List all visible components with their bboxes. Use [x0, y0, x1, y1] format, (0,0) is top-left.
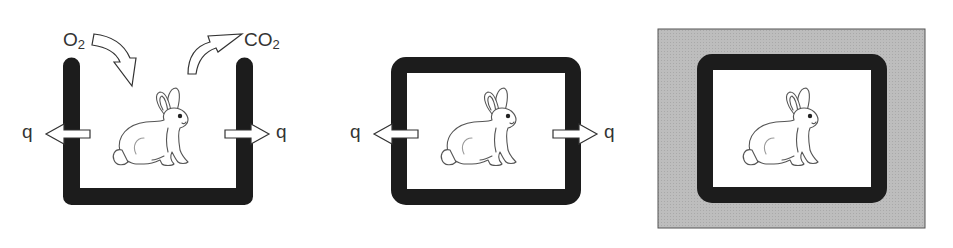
heat-label-left: q [22, 122, 33, 141]
open-system-panel: O2 CO2 q q [0, 0, 320, 248]
curved-arrow-out-icon [188, 34, 242, 74]
closed-system-panel: q q [320, 0, 640, 248]
curved-arrow-in-icon [92, 34, 136, 86]
oxygen-label: O2 [63, 30, 85, 51]
isolated-system-panel [640, 0, 953, 248]
isolated-system-diagram [640, 0, 953, 248]
heat-label-right: q [276, 122, 287, 141]
heat-label-left: q [350, 122, 361, 141]
rabbit-icon [113, 88, 188, 166]
heat-label-right: q [604, 122, 615, 141]
carbon-dioxide-label: CO2 [244, 30, 280, 51]
closed-system-diagram [320, 0, 640, 248]
